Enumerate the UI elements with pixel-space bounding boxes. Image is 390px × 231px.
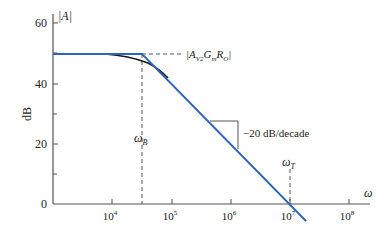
y-tick-label: 0	[41, 197, 47, 211]
x-tick-label: 108	[340, 209, 355, 222]
actual-response-curve	[53, 54, 168, 78]
y-tick-label: 60	[35, 16, 47, 30]
slope-triangle	[210, 121, 238, 149]
y-tick-labels: 60 40 20 0	[35, 16, 47, 211]
x-tick-label: 105	[163, 209, 178, 222]
omega-b-label: ωB	[134, 131, 147, 147]
x-axis-label: ω	[364, 186, 372, 200]
x-tick-label: 106	[222, 209, 237, 222]
bode-plot: 60 40 20 0 dB |A| 104 105 106 107 108 ω …	[0, 0, 390, 231]
gain-annotation: |AV2GmRO|	[186, 48, 231, 63]
x-ticks	[112, 199, 349, 204]
y-tick-label: 20	[35, 137, 47, 151]
x-tick-label: 107	[281, 209, 296, 222]
x-tick-labels: 104 105 106 107 108	[103, 209, 355, 222]
x-tick-label: 104	[103, 209, 118, 222]
y-axis-title: |A|	[58, 9, 72, 23]
y-ticks	[53, 23, 58, 174]
y-tick-label: 40	[35, 77, 47, 91]
y-axis-label: dB	[20, 107, 34, 121]
omega-t-label: ωT	[282, 155, 295, 171]
slope-label: −20 dB/decade	[243, 127, 309, 139]
